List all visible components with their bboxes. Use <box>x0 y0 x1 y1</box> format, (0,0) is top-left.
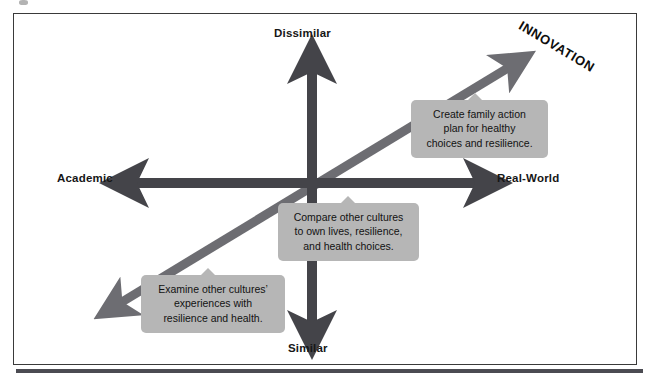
callout-line: to own lives, resilience, <box>287 224 410 238</box>
axis-label-real-world: Real-World <box>497 172 560 184</box>
axis-arrow-layer <box>0 0 651 386</box>
diagram-page: Dissimilar Similar Academic Real-World I… <box>0 0 651 386</box>
callout-tail-icon <box>340 196 356 204</box>
callout-line: Compare other cultures <box>287 210 410 224</box>
callout-create-family-action-plan: Create family action plan for healthy ch… <box>411 100 548 158</box>
callout-line: experiences with <box>150 296 276 310</box>
axis-label-academic: Academic <box>57 172 113 184</box>
callout-line: choices and resilience. <box>420 136 539 150</box>
callout-examine-other-cultures: Examine other cultures’ experiences with… <box>141 275 285 333</box>
callout-line: resilience and health. <box>150 311 276 325</box>
callout-tail-icon <box>467 93 483 101</box>
callout-line: plan for healthy <box>420 121 539 135</box>
callout-tail-icon <box>200 268 216 276</box>
axis-label-similar: Similar <box>288 342 328 354</box>
callout-line: and health choices. <box>287 239 410 253</box>
callout-compare-other-cultures: Compare other cultures to own lives, res… <box>278 203 419 261</box>
axis-label-dissimilar: Dissimilar <box>274 27 331 39</box>
callout-line: Examine other cultures’ <box>150 282 276 296</box>
callout-line: Create family action <box>420 107 539 121</box>
diagram-stage: Dissimilar Similar Academic Real-World I… <box>0 0 651 386</box>
